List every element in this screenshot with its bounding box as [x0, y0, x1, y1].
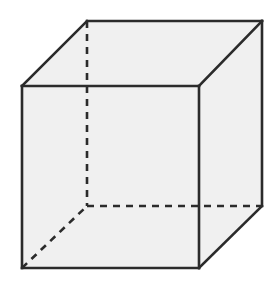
diagram-canvas [0, 0, 280, 286]
cube-diagram [0, 0, 280, 286]
